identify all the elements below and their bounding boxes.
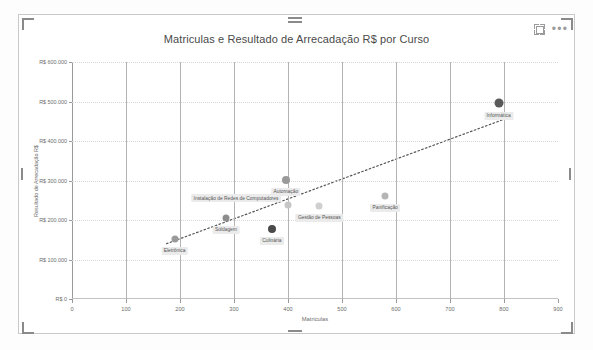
y-tick-mark — [69, 220, 72, 221]
y-tick-mark — [69, 141, 72, 142]
x-tick-label: 200 — [175, 306, 184, 312]
selection-handle-bottom-left[interactable] — [22, 322, 34, 334]
x-tick-mark — [558, 299, 559, 303]
y-tick-mark — [69, 62, 72, 63]
gridline-vertical — [180, 62, 181, 299]
scatter-point-label: Panificação — [370, 204, 400, 212]
scatter-point[interactable] — [171, 235, 178, 242]
y-tick-label: R$ 100.000 — [39, 257, 67, 263]
x-tick-label: 0 — [70, 306, 73, 312]
selection-handle-top-left[interactable] — [22, 18, 34, 30]
gridline-horizontal — [72, 62, 558, 63]
x-tick-mark — [396, 299, 397, 303]
selection-handle-bottom-right[interactable] — [561, 322, 573, 334]
y-tick-label: R$ 300.000 — [39, 178, 67, 184]
resize-handle-right[interactable] — [569, 168, 571, 180]
more-options-glyph: ••• — [552, 25, 569, 33]
gridline-horizontal — [72, 141, 558, 142]
y-tick-mark — [69, 260, 72, 261]
x-tick-mark — [72, 299, 73, 303]
x-tick-label: 300 — [229, 306, 238, 312]
x-tick-label: 700 — [445, 306, 454, 312]
resize-handle-left[interactable] — [21, 168, 23, 180]
scatter-point-label: Eletrônica — [161, 247, 188, 255]
gridline-horizontal — [72, 181, 558, 182]
screenshot-root: ••• Matriculas e Resultado de Arrecadaçã… — [0, 0, 593, 350]
y-tick-label: R$ 400.000 — [39, 138, 67, 144]
scatter-point[interactable] — [268, 225, 276, 233]
x-tick-mark — [342, 299, 343, 303]
x-tick-mark — [288, 299, 289, 303]
x-tick-label: 800 — [499, 306, 508, 312]
x-tick-label: 100 — [121, 306, 130, 312]
x-axis-title: Matriculas — [72, 316, 558, 322]
gridline-vertical — [504, 62, 505, 299]
x-tick-mark — [180, 299, 181, 303]
scatter-point[interactable] — [282, 176, 290, 184]
y-tick-label: R$ 500.000 — [39, 99, 67, 105]
y-tick-mark — [69, 102, 72, 103]
gridline-vertical — [126, 62, 127, 299]
x-tick-mark — [234, 299, 235, 303]
scatter-point-label: Informática — [484, 112, 513, 120]
scatter-point[interactable] — [222, 214, 229, 221]
gridline-vertical — [396, 62, 397, 299]
x-tick-label: 900 — [553, 306, 562, 312]
x-tick-label: 500 — [337, 306, 346, 312]
x-tick-mark — [126, 299, 127, 303]
scatter-point[interactable] — [494, 99, 503, 108]
gridline-vertical — [234, 62, 235, 299]
gridline-vertical — [450, 62, 451, 299]
gridline-horizontal — [72, 102, 558, 103]
plot-area: R$ 0R$ 100.000R$ 200.000R$ 300.000R$ 400… — [72, 62, 558, 299]
y-tick-mark — [69, 181, 72, 182]
x-tick-label: 400 — [283, 306, 292, 312]
scatter-point-label: Instalação de Redes de Computadores — [191, 194, 281, 202]
y-axis-title-text: Resultado de Arrecadação R$ — [33, 145, 39, 217]
scatter-point-label: Culinária — [260, 237, 284, 245]
resize-handle-top[interactable] — [288, 17, 302, 19]
x-tick-label: 600 — [391, 306, 400, 312]
scatter-point-label: Automação — [271, 188, 301, 196]
x-tick-mark — [450, 299, 451, 303]
chart-title: Matriculas e Resultado de Arrecadação R$… — [0, 33, 593, 45]
scatter-point[interactable] — [285, 202, 292, 209]
y-tick-label: R$ 0 — [56, 296, 67, 302]
scatter-point[interactable] — [316, 202, 323, 209]
y-tick-label: R$ 200.000 — [39, 217, 67, 223]
resize-handle-bottom[interactable] — [288, 330, 302, 332]
gridline-horizontal — [72, 260, 558, 261]
scatter-point[interactable] — [382, 192, 389, 199]
scatter-point-label: Gestão de Pessoas — [296, 214, 343, 222]
gridline-vertical — [342, 62, 343, 299]
scatter-point-label: Soldagem — [212, 226, 239, 234]
x-tick-mark — [504, 299, 505, 303]
y-tick-label: R$ 600.000 — [39, 59, 67, 65]
resize-handle-top-secondary[interactable] — [288, 21, 302, 23]
